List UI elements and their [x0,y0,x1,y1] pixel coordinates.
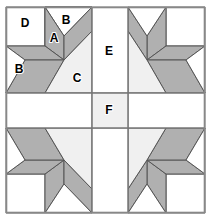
quilt-block-svg: D B A B C E F [0,0,213,221]
piece-e-vertical-sashing-bottom [92,128,128,213]
piece-d-corner-square-br [166,174,205,213]
quilt-diagram-canvas: D B A B C E F [0,0,213,221]
piece-d-corner-square-tr [166,7,205,46]
quadrant-top-right [128,7,205,93]
sashing-horizontal-left [6,93,92,128]
label-e: E [105,44,113,58]
label-d: D [21,16,30,30]
quadrant-bottom-right [128,128,205,213]
label-a: A [50,31,59,45]
label-c: C [73,71,82,85]
quadrant-bottom-left [6,128,92,213]
label-b-left: B [15,62,24,76]
label-b-top: B [62,13,71,27]
sashing-horizontal-right [128,93,205,128]
label-f: F [105,103,112,117]
piece-d-corner-square-bl [6,174,45,213]
